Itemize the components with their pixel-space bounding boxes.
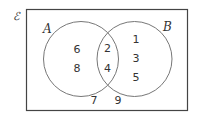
neither-element: 9 (115, 94, 122, 107)
set-b-label: B (162, 20, 172, 34)
neither-element: 7 (91, 94, 98, 107)
b-only-element: 3 (133, 52, 140, 65)
set-a-label: A (42, 22, 52, 36)
venn-diagram: ℰ A B 6 8 2 4 1 3 5 7 9 (0, 0, 197, 119)
b-only-element: 5 (133, 71, 140, 84)
a-only-element: 6 (74, 43, 81, 56)
a-only-element: 8 (74, 62, 81, 75)
intersection-element: 4 (104, 62, 111, 75)
intersection-element: 2 (104, 42, 111, 55)
universal-set-label: ℰ (13, 10, 21, 23)
b-only-element: 1 (133, 33, 140, 46)
